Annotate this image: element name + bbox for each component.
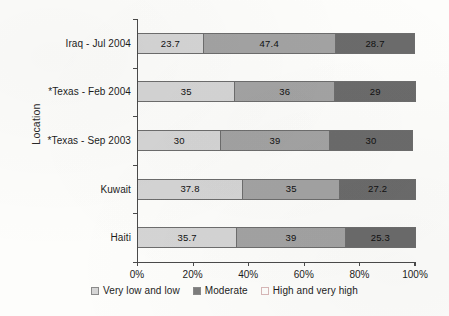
- bar-value-label: 30: [366, 136, 377, 146]
- bar-value-label: 35: [286, 184, 297, 194]
- bar-segment: 35: [138, 81, 235, 102]
- bar-value-label: 35: [181, 87, 192, 97]
- bar-segment: 37.8: [138, 179, 243, 200]
- bar-value-label: 27.2: [368, 184, 387, 194]
- bar-value-label: 47.4: [260, 39, 279, 49]
- y-axis-tick: [133, 116, 137, 117]
- bar-value-label: 28.7: [365, 39, 384, 49]
- x-axis-tick: [415, 262, 416, 266]
- x-axis-line: [137, 262, 415, 263]
- bar-row: *Texas - Sep 2003303930: [138, 130, 416, 151]
- plot-area: Iraq - Jul 200423.747.428.7*Texas - Feb …: [137, 19, 415, 262]
- bar-segment: 23.7: [138, 33, 204, 54]
- y-axis-category-label: *Texas - Sep 2003: [48, 135, 131, 146]
- x-axis-tick-label: 40%: [226, 269, 270, 280]
- y-axis-tick: [133, 213, 137, 214]
- bar-segment: 30: [138, 130, 221, 151]
- bar-row: Iraq - Jul 200423.747.428.7: [138, 33, 416, 54]
- bar-segment: 39: [221, 130, 329, 151]
- bar-value-label: 39: [285, 233, 296, 243]
- bar-row: Kuwait37.83527.2: [138, 179, 416, 200]
- bar-segment: 28.7: [336, 33, 416, 54]
- bar-segment: 25.3: [346, 227, 416, 248]
- y-axis-tick: [133, 165, 137, 166]
- bar-segment: 36: [235, 81, 335, 102]
- x-axis-tick: [137, 262, 138, 266]
- bar-value-label: 36: [279, 87, 290, 97]
- x-axis-tick-label: 100%: [393, 269, 437, 280]
- y-axis-category-label: *Texas - Feb 2004: [48, 86, 131, 97]
- bar-segment: 30: [330, 130, 413, 151]
- bar-row: Haiti35.73925.3: [138, 227, 416, 248]
- bar-segment: 35: [243, 179, 340, 200]
- bar-value-label: 37.8: [180, 184, 199, 194]
- x-axis-tick: [193, 262, 194, 266]
- legend-label: Moderate: [205, 285, 248, 296]
- legend-label: Very low and low: [103, 285, 180, 296]
- y-axis-tick: [133, 68, 137, 69]
- y-axis-category-label: Kuwait: [100, 184, 131, 195]
- y-axis-title: Location: [30, 84, 42, 164]
- chart-legend: Very low and lowModerateHigh and very hi…: [0, 285, 449, 296]
- bar-segment: 27.2: [340, 179, 416, 200]
- x-axis-tick-label: 0%: [115, 269, 159, 280]
- legend-swatch-icon: [193, 287, 201, 295]
- x-axis-tick: [248, 262, 249, 266]
- bar-value-label: 25.3: [371, 233, 390, 243]
- bar-segment: 35.7: [138, 227, 237, 248]
- x-axis-tick-label: 80%: [337, 269, 381, 280]
- x-axis-tick-label: 20%: [171, 269, 215, 280]
- bar-value-label: 39: [270, 136, 281, 146]
- x-axis-tick-label: 60%: [282, 269, 326, 280]
- bar-segment: 39: [237, 227, 345, 248]
- legend-swatch-icon: [91, 287, 99, 295]
- bar-value-label: 30: [174, 136, 185, 146]
- legend-label: High and very high: [273, 285, 358, 296]
- y-axis-category-label: Iraq - Jul 2004: [66, 38, 131, 49]
- x-axis-tick: [304, 262, 305, 266]
- bar-value-label: 23.7: [161, 39, 180, 49]
- y-axis-category-label: Haiti: [110, 232, 131, 243]
- stacked-bar-chart: Location Iraq - Jul 200423.747.428.7*Tex…: [0, 0, 449, 316]
- bar-row: *Texas - Feb 2004353629: [138, 81, 416, 102]
- bar-value-label: 29: [370, 87, 381, 97]
- legend-swatch-icon: [261, 287, 269, 295]
- legend-item: Very low and low: [91, 285, 180, 296]
- bar-value-label: 35.7: [177, 233, 196, 243]
- y-axis-tick: [133, 19, 137, 20]
- bar-segment: 47.4: [204, 33, 336, 54]
- legend-item: High and very high: [261, 285, 358, 296]
- legend-item: Moderate: [193, 285, 248, 296]
- bar-segment: 29: [335, 81, 416, 102]
- x-axis-tick: [359, 262, 360, 266]
